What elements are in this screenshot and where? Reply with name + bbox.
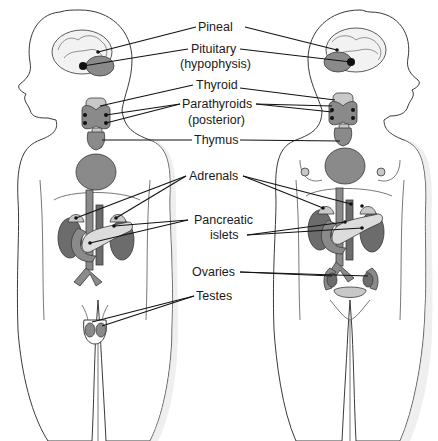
female-parathyroid-3	[351, 108, 355, 112]
female-figure	[273, 10, 432, 441]
male-parathyroid-2	[83, 121, 87, 125]
female-heart	[325, 148, 365, 184]
male-cerebellum	[86, 56, 114, 76]
female-right-nipple	[377, 168, 385, 176]
label-pancreatic-islets: islets	[210, 228, 238, 242]
female-parathyroid-4	[351, 116, 355, 120]
female-parathyroid-2	[330, 116, 334, 120]
labels: Pineal Pituitary (hypophysis) Thyroid Pa…	[180, 20, 253, 303]
label-pineal: Pineal	[198, 20, 233, 34]
label-pituitary-alt: (hypophysis)	[180, 57, 251, 71]
label-thyroid: Thyroid	[196, 78, 238, 92]
female-left-nipple	[301, 168, 309, 176]
male-figure	[17, 10, 178, 441]
label-pituitary: Pituitary	[191, 42, 237, 56]
label-thymus: Thymus	[194, 133, 238, 147]
female-uterus	[334, 287, 366, 298]
female-right-ovary	[363, 273, 373, 287]
label-parathyroids: Parathyroids	[182, 97, 252, 111]
endocrine-system-diagram: Pineal Pituitary (hypophysis) Thyroid Pa…	[0, 0, 438, 441]
label-pancreatic: Pancreatic	[194, 213, 253, 227]
female-adrenal-dot-right	[360, 204, 364, 208]
label-ovaries: Ovaries	[192, 265, 235, 279]
male-heart	[76, 154, 116, 190]
label-testes: Testes	[196, 289, 232, 303]
male-left-testis	[85, 323, 95, 337]
label-adrenals: Adrenals	[189, 169, 238, 183]
label-parathyroids-note: (posterior)	[188, 113, 245, 127]
male-parathyroid-1	[83, 113, 87, 117]
